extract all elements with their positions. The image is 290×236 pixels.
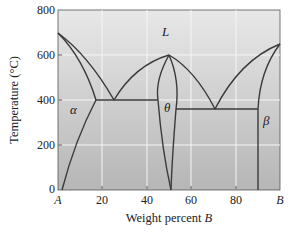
y-axis-ticks: 800 600 400 200 0 — [37, 3, 55, 196]
y-tick-label: 600 — [37, 48, 55, 62]
y-tick-label: 400 — [37, 93, 55, 107]
phase-label-liquid: L — [161, 24, 169, 39]
x-tick-label: B — [276, 193, 284, 207]
x-tick-label: 20 — [96, 193, 108, 207]
x-tick-label: A — [53, 193, 62, 207]
phase-diagram-chart: L α θ β 800 600 400 200 0 A 20 40 60 80 … — [0, 0, 290, 236]
y-tick-label: 800 — [37, 3, 55, 17]
phase-label-theta: θ — [164, 100, 171, 115]
x-tick-label: 40 — [141, 193, 153, 207]
x-axis-ticks: A 20 40 60 80 B — [53, 193, 284, 207]
y-tick-label: 200 — [37, 138, 55, 152]
x-axis-label: Weight percent B — [126, 211, 213, 225]
y-axis-label: Temperature (°C) — [7, 56, 21, 144]
phase-label-alpha: α — [70, 102, 78, 117]
x-tick-label: 80 — [230, 193, 242, 207]
x-axis-label-text: Weight percent — [126, 211, 205, 225]
phase-label-beta: β — [262, 113, 270, 128]
x-tick-label: 60 — [185, 193, 197, 207]
x-axis-label-var: B — [205, 211, 213, 225]
